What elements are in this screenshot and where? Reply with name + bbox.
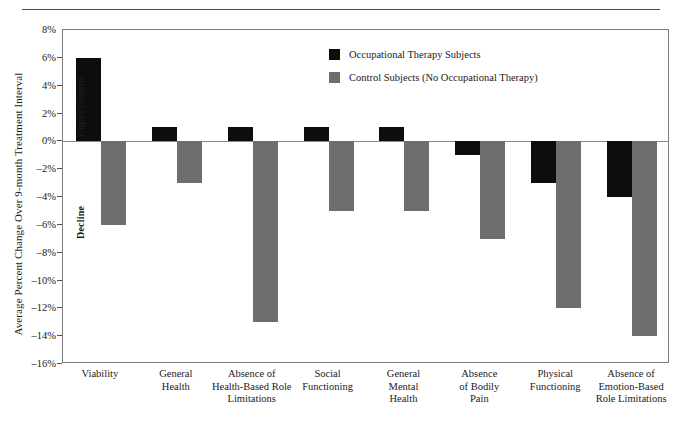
x-axis-label-line: of Bodily <box>459 381 499 394</box>
bar-treatment <box>531 141 556 183</box>
x-axis-label-line: Physical <box>530 368 581 381</box>
y-tick-mark <box>57 140 62 141</box>
bar-control <box>329 141 354 211</box>
y-tick-mark <box>57 57 62 58</box>
y-tick-label: –8% <box>37 246 56 257</box>
x-axis-label-line: General <box>387 368 420 381</box>
y-tick-mark <box>57 113 62 114</box>
improvement-label: Improvement <box>75 77 86 137</box>
y-tick-label: –16% <box>32 358 57 369</box>
x-axis-label-line: Pain <box>459 393 499 406</box>
x-axis-label-line: Mental <box>387 381 420 394</box>
decline-label: Decline <box>75 206 86 239</box>
x-axis-label-line: Functioning <box>530 381 581 394</box>
legend-swatch-control <box>329 72 340 83</box>
x-axis-label-line: Social <box>302 368 353 381</box>
y-tick-label: –4% <box>37 191 56 202</box>
x-axis-label: Absence ofEmotion-BasedRole Limitations <box>596 368 667 406</box>
bar-control <box>101 141 126 225</box>
y-tick-mark <box>57 224 62 225</box>
y-tick-mark <box>57 307 62 308</box>
legend: Occupational Therapy SubjectsControl Sub… <box>329 48 629 94</box>
y-tick-label: –2% <box>37 163 56 174</box>
figure: Average Percent Change Over 9-month Trea… <box>0 0 682 425</box>
x-axis-label: Absence ofHealth-Based RoleLimitations <box>212 368 292 406</box>
legend-item: Occupational Therapy Subjects <box>329 48 629 60</box>
x-axis-label: GeneralMentalHealth <box>387 368 420 406</box>
bar-control <box>632 141 657 336</box>
y-tick-label: 0% <box>42 135 56 146</box>
y-tick-label: –6% <box>37 218 56 229</box>
y-tick-mark <box>57 335 62 336</box>
header-rule <box>22 9 660 10</box>
bar-control <box>404 141 429 211</box>
y-axis-tick-labels: 8%6%4%2%0%–2%–4%–6%–8%–10%–12%–14%–16% <box>18 29 56 363</box>
x-axis-label-line: Absence of <box>212 368 292 381</box>
legend-label: Occupational Therapy Subjects <box>349 49 481 60</box>
bar-treatment <box>379 127 404 141</box>
x-axis-label-line: Health-Based Role <box>212 381 292 394</box>
y-tick-label: 2% <box>42 107 56 118</box>
y-tick-label: –12% <box>32 302 57 313</box>
x-axis-label: Absenceof BodilyPain <box>459 368 499 406</box>
x-axis-category-labels: ViabilityGeneralHealthAbsence ofHealth-B… <box>62 368 669 423</box>
y-tick-label: 4% <box>42 79 56 90</box>
bar-treatment <box>228 127 253 141</box>
x-axis-label-line: Limitations <box>212 393 292 406</box>
x-axis-label-line: General <box>159 368 192 381</box>
x-axis-label-line: Emotion-Based <box>596 381 667 394</box>
x-axis-label-line: Role Limitations <box>596 393 667 406</box>
bar-control <box>177 141 202 183</box>
x-axis-label: SocialFunctioning <box>302 368 353 393</box>
y-tick-mark <box>57 280 62 281</box>
bar-control <box>556 141 581 308</box>
x-axis-label-line: Health <box>387 393 420 406</box>
y-tick-mark <box>57 168 62 169</box>
bar-control <box>480 141 505 238</box>
legend-label: Control Subjects (No Occupational Therap… <box>349 72 538 83</box>
x-axis-label: PhysicalFunctioning <box>530 368 581 393</box>
legend-swatch-treatment <box>329 49 340 60</box>
y-tick-label: –14% <box>32 330 57 341</box>
x-axis-label-line: Absence <box>459 368 499 381</box>
y-tick-mark <box>57 252 62 253</box>
x-axis-label: GeneralHealth <box>159 368 192 393</box>
x-axis-label-line: Viability <box>82 368 119 381</box>
bar-treatment <box>304 127 329 141</box>
bar-treatment <box>152 127 177 141</box>
y-tick-mark <box>57 196 62 197</box>
y-tick-mark <box>57 85 62 86</box>
legend-item: Control Subjects (No Occupational Therap… <box>329 71 629 83</box>
bar-treatment <box>455 141 480 155</box>
bar-control <box>253 141 278 322</box>
y-tick-label: 6% <box>42 51 56 62</box>
x-axis-label-line: Functioning <box>302 381 353 394</box>
x-axis-label-line: Absence of <box>596 368 667 381</box>
x-axis-label-line: Health <box>159 381 192 394</box>
x-axis-label: Viability <box>82 368 119 381</box>
y-tick-mark <box>57 363 62 364</box>
y-tick-label: 8% <box>42 24 56 35</box>
y-tick-label: –10% <box>32 274 57 285</box>
bar-treatment <box>607 141 632 197</box>
